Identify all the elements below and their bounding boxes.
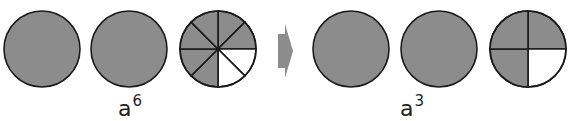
left-circle-group [4, 11, 256, 87]
right-label: a3 [400, 98, 424, 120]
left-circle-3 [180, 11, 256, 87]
right-circle-2 [401, 11, 477, 87]
right-circle-1 [313, 11, 389, 87]
right-label-base: a [400, 96, 413, 121]
right-circle-3 [490, 11, 566, 87]
right-label-exponent: 3 [414, 92, 424, 110]
left-label: a6 [118, 98, 142, 120]
left-circle-1 [4, 11, 80, 87]
left-label-exponent: 6 [132, 92, 142, 110]
right-arrow-icon [278, 24, 293, 78]
fraction-diagram [0, 0, 568, 121]
right-circle-group [313, 11, 566, 87]
left-circle-2 [91, 11, 167, 87]
left-label-base: a [118, 96, 131, 121]
